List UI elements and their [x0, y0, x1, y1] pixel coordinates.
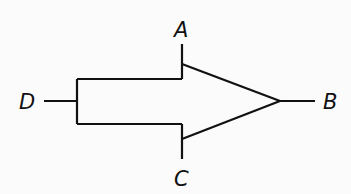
- diagram-canvas: A B C D: [0, 0, 351, 194]
- label-c: C: [174, 167, 189, 191]
- label-a: A: [172, 18, 188, 42]
- label-b: B: [323, 90, 337, 114]
- arrow-top-edge: [182, 64, 280, 101]
- label-d: D: [19, 90, 35, 114]
- arrow-bottom-edge: [182, 101, 280, 139]
- gate-diagram: A B C D: [0, 0, 351, 194]
